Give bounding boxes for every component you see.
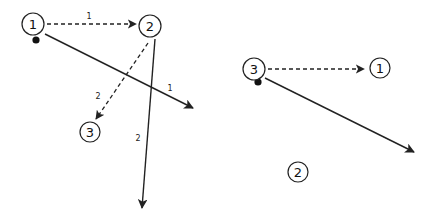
left-node-3: 3 [80,122,100,142]
right-edge-3-to-out-solid [265,78,414,152]
left-edge-2-to-out-solid [142,39,155,208]
node-label: 2 [146,19,154,34]
node-label: 3 [86,125,94,140]
diagram-canvas: 1212123 312 [0,0,439,222]
left-graph: 1212123 [22,12,193,209]
node-label: 1 [29,17,37,32]
left-node-2: 2 [139,15,161,37]
left-edge-label: 1 [167,84,172,93]
left-edge-label: 1 [86,12,91,21]
right-node-3: 3 [243,58,265,80]
right-node-2: 2 [288,162,308,182]
left-edge-label: 2 [135,134,140,143]
node-label: 3 [250,62,258,77]
left-edge-label: 2 [95,92,100,101]
left-edge-1-to-out-solid [45,34,193,108]
node-label: 2 [294,165,302,180]
right-node-1: 1 [370,58,390,78]
left-node-1: 1 [22,13,44,35]
left-node-1-marker-dot [32,36,39,43]
right-graph: 312 [243,58,414,182]
node-label: 1 [376,61,384,76]
